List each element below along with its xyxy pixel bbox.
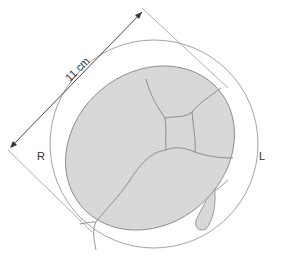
left-side-label: L xyxy=(259,150,265,162)
right-side-label: R xyxy=(37,150,45,162)
fetal-head xyxy=(32,32,268,264)
fetal-skull-diagram: 11 cm R L xyxy=(0,0,282,270)
